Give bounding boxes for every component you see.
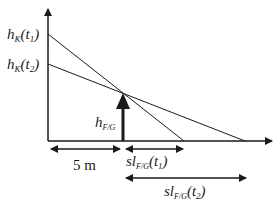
label-sl-t2: slF/G(t2)	[164, 183, 206, 201]
label-hk-t2: hK(t2)	[7, 56, 39, 74]
label-hfg: hF/G	[95, 114, 116, 132]
slope-line-t1	[48, 34, 184, 141]
label-5m: 5 m	[73, 157, 96, 173]
label-sl-t1: slF/G(t1)	[126, 153, 168, 171]
slope-diagram: hK(t1) hK(t2) hF/G 5 m slF/G(t1) slF/G(t…	[0, 0, 279, 211]
label-hk-t1: hK(t1)	[7, 26, 39, 44]
slope-line-t2	[48, 64, 245, 141]
